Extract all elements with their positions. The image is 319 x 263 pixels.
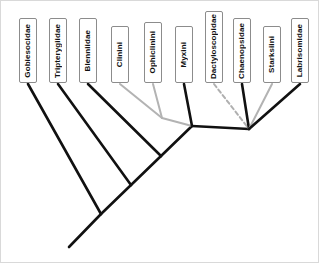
taxon-label-labrisomidae: Labrisomidae — [296, 24, 304, 77]
internal-branch-n4-n6 — [192, 126, 249, 129]
terminal-branch-starksiini — [249, 84, 272, 129]
terminal-branch-layer — [28, 84, 300, 214]
taxon-label-myxini: Myxini — [180, 42, 188, 68]
internal-branch-n2-n3 — [131, 156, 161, 185]
taxon-box-gobiesocidae[interactable]: Gobiesocidae — [19, 18, 37, 83]
taxon-box-dactyloscopidae[interactable]: Dactyloscopidae — [205, 11, 223, 83]
taxon-box-starksiini[interactable]: Starksiini — [263, 26, 281, 83]
taxon-box-ophiclinini[interactable]: Ophiclinini — [144, 22, 162, 83]
terminal-branch-blenniidae — [88, 84, 161, 156]
taxon-box-clinini[interactable]: Clinini — [111, 26, 129, 83]
taxon-label-dactyloscopidae: Dactyloscopidae — [210, 14, 218, 79]
internal-branch-root-n1 — [69, 214, 101, 247]
taxon-label-tripterygiidae: Tripterygiidae — [54, 24, 62, 78]
taxon-box-blenniidae[interactable]: Blenniidae — [79, 18, 97, 83]
internal-branch-n3-n4 — [161, 126, 192, 156]
terminal-branch-labrisomidae — [249, 84, 300, 129]
terminal-branch-gobiesocidae — [28, 84, 101, 214]
terminal-branch-tripterygiidae — [58, 84, 131, 185]
taxon-label-gobiesocidae: Gobiesocidae — [24, 24, 32, 78]
taxon-label-clinini: Clinini — [116, 42, 124, 67]
terminal-branch-chaenopsidae — [242, 84, 249, 129]
taxon-label-ophiclinini: Ophiclinini — [149, 31, 157, 73]
taxon-label-blenniidae: Blenniidae — [84, 30, 92, 71]
taxon-label-starksiini: Starksiini — [268, 36, 276, 73]
taxon-box-chaenopsidae[interactable]: Chaenopsidae — [233, 18, 251, 83]
taxon-label-chaenopsidae: Chaenopsidae — [238, 23, 246, 79]
taxon-box-tripterygiidae[interactable]: Tripterygiidae — [49, 18, 67, 83]
terminal-branch-clinini — [120, 84, 162, 118]
internal-branch-n4-n5 — [162, 118, 192, 126]
terminal-branch-myxini — [184, 84, 192, 126]
internal-branch-n1-n2 — [101, 185, 131, 214]
taxon-box-myxini[interactable]: Myxini — [175, 26, 193, 83]
cladogram-figure: GobiesocidaeTripterygiidaeBlenniidaeClin… — [0, 0, 319, 263]
taxon-box-labrisomidae[interactable]: Labrisomidae — [291, 18, 309, 83]
